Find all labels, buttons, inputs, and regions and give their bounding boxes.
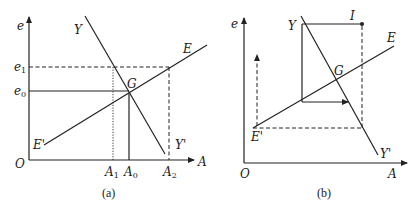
axis-y-label-b: e [231,17,238,31]
axis-x-label-b: A [387,167,397,181]
curve-E-a [44,45,207,145]
caption-b: (b) [317,186,331,200]
caption-a: (a) [102,186,115,200]
axis-x-label-a: A [197,155,207,169]
label-G-a: G [127,77,137,91]
label-E-b: E [386,31,396,45]
label-I: I [349,9,355,23]
axis-y-label-a: e [17,19,24,33]
label-Y-a: Y [74,23,83,37]
origin-label-a: O [15,157,25,171]
label-Y-prime-a: Y' [175,138,186,152]
curve-Y-a [85,16,165,154]
origin-label-b: O [240,167,250,181]
curve-E-b [253,46,394,128]
label-Y-prime-b: Y' [380,147,391,161]
label-Y-b: Y [288,19,297,33]
curve-Y-b [301,16,378,155]
point-I-dot [360,22,364,26]
label-E-a: E [182,42,192,56]
panel-a: e A O Y Y' E E' G e1 e0 A1 A0 A2 (a) [14,16,207,200]
label-E-prime-a: E' [32,138,45,152]
label-G-b: G [334,64,344,78]
label-A0: A0 [123,165,138,180]
label-e1: e1 [14,60,26,75]
diagram-canvas: e A O Y Y' E E' G e1 e0 A1 A0 A2 (a) e [0,0,415,214]
panel-b: e A O Y Y' E E' G I (b) [231,9,407,200]
label-e0: e0 [14,84,26,99]
label-A1: A1 [104,165,119,180]
label-E-prime-b: E' [250,130,263,144]
label-A2: A2 [162,165,177,180]
